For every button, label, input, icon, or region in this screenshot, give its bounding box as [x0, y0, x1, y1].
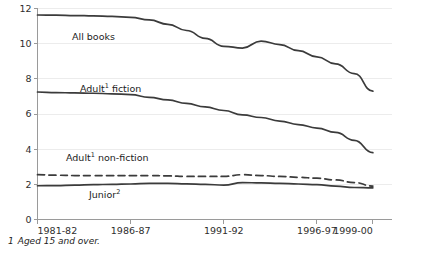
x-tick-label: 1996-97: [297, 225, 337, 236]
series-label-adult-fiction: Adult1 fiction: [80, 84, 141, 94]
series-line-all-books: [38, 15, 373, 91]
series-label-suffix: non-fiction: [95, 152, 149, 163]
y-axis-tick-labels: 024681012: [19, 3, 31, 225]
series-label-junior: Junior2: [89, 190, 120, 200]
footnote-number: 1: [8, 236, 14, 246]
series-label-adult-non-fiction: Adult1 non-fiction: [66, 153, 149, 163]
y-tick-label: 10: [19, 38, 31, 49]
series-line-junior: [38, 183, 373, 188]
y-tick-label: 8: [25, 73, 31, 84]
x-tick-label: 1981-82: [38, 225, 78, 236]
y-tick-label: 0: [25, 214, 31, 225]
x-tick-label: 1999-00: [333, 225, 373, 236]
series-label-text: All books: [72, 31, 115, 42]
footnote-text: Aged 15 and over.: [18, 236, 100, 246]
series-label-text: Adult: [80, 83, 105, 94]
x-tick-label: 1991-92: [204, 225, 244, 236]
y-tick-label: 12: [19, 3, 31, 14]
y-tick-label: 6: [25, 108, 31, 119]
y-tick-label: 2: [25, 179, 31, 190]
series-label-text: Adult: [66, 152, 91, 163]
series-label-suffix: fiction: [109, 83, 141, 94]
x-axis-tick-labels: 1981-821986-871991-921996-971999-00: [38, 225, 373, 236]
series-label-text: Junior: [89, 189, 116, 200]
chart-footnote: 1Aged 15 and over.: [8, 236, 100, 246]
footnote-marker: 2: [116, 188, 120, 196]
y-tick-label: 4: [25, 144, 31, 155]
x-tick-label: 1986-87: [111, 225, 151, 236]
series-line-adult-fiction: [38, 92, 373, 153]
chart-container: 024681012 1981-821986-871991-921996-9719…: [0, 0, 423, 253]
series-label-all-books: All books: [72, 32, 115, 42]
line-chart-plot: 024681012 1981-821986-871991-921996-9719…: [0, 0, 423, 253]
